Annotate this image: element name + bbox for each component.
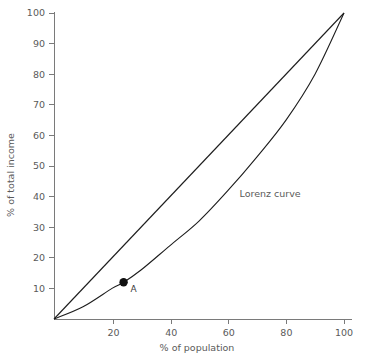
x-tick-labels: 20 40 60 80 100 xyxy=(108,327,354,338)
y-tick-label-20: 20 xyxy=(33,252,45,263)
data-point-a-label: A xyxy=(131,284,138,294)
y-tick-label-70: 70 xyxy=(33,99,45,110)
y-tick-label-40: 40 xyxy=(33,191,45,202)
x-tick-label-20: 20 xyxy=(108,327,120,338)
x-tick-label-40: 40 xyxy=(165,327,177,338)
x-tick-label-60: 60 xyxy=(223,327,235,338)
lorenz-curve-annotation: Lorenz curve xyxy=(240,188,301,199)
y-tick-label-50: 50 xyxy=(33,160,45,171)
lorenz-curve-chart: 10 20 30 40 50 60 70 80 90 100 20 40 60 … xyxy=(0,0,367,361)
y-tick-label-80: 80 xyxy=(33,69,45,80)
y-tick-marks xyxy=(49,13,54,288)
y-axis-title: % of total income xyxy=(5,133,16,217)
x-tick-marks xyxy=(114,319,344,324)
y-tick-label-100: 100 xyxy=(27,7,45,18)
y-tick-label-90: 90 xyxy=(33,38,45,49)
axes-group xyxy=(54,12,352,319)
y-tick-labels: 10 20 30 40 50 60 70 80 90 100 xyxy=(27,7,45,293)
x-tick-label-100: 100 xyxy=(335,327,353,338)
line-of-equality xyxy=(54,13,344,319)
plot-area: 10 20 30 40 50 60 70 80 90 100 20 40 60 … xyxy=(0,0,367,361)
y-tick-label-30: 30 xyxy=(33,222,45,233)
y-tick-label-60: 60 xyxy=(33,130,45,141)
y-tick-label-10: 10 xyxy=(33,283,45,294)
data-point-a-marker xyxy=(119,278,127,286)
x-tick-label-80: 80 xyxy=(280,327,292,338)
x-axis-title: % of population xyxy=(160,342,235,353)
